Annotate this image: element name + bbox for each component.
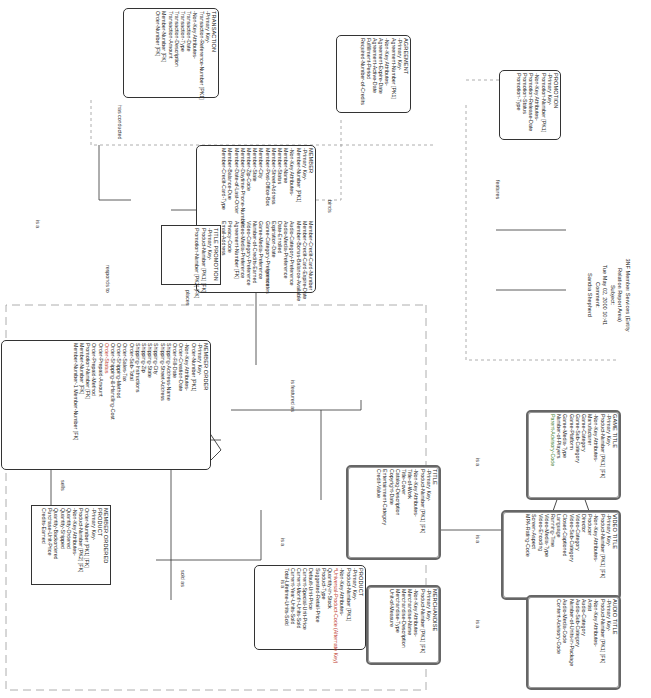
- rel-label-sold-as: sold as: [180, 570, 186, 587]
- entity-product[interactable]: PRODUCT -Primary Key- Product-Number [PK…: [254, 565, 366, 650]
- entity-audio-title[interactable]: AUDIO TITLE -Primary Key- Product-Number…: [526, 595, 621, 690]
- entity-promotion[interactable]: PROMOTION -Primary Key- Promotion-Number…: [499, 70, 561, 140]
- er-diagram-canvas: TRANSACTION -Primary Key- Transaction-Re…: [0, 0, 651, 698]
- rel-label-is-a-audio: is a: [475, 620, 481, 628]
- entity-title: MEMBER ORDER: [203, 343, 209, 467]
- rel-label-responds-to: responds to: [105, 265, 111, 293]
- rel-label-is-a-title: is a: [280, 538, 286, 546]
- entity-member-ordered-product[interactable]: MEMBER ORDERED PRODUCT -Primary Key- Ord…: [31, 505, 111, 585]
- entity-merchandise[interactable]: MERCHANDISE -Primary Key- Product-Number…: [366, 585, 441, 665]
- rel-label-features: features: [495, 180, 501, 199]
- entity-title: PRODUCT: [358, 568, 364, 647]
- entity-agreement[interactable]: AGREEMENT -Primary Key- Agreement-Number…: [336, 35, 411, 113]
- entity-transaction[interactable]: TRANSACTION -Primary Key- Transaction-Re…: [123, 8, 219, 98]
- entity-title: MEMBER: [308, 148, 314, 217]
- entity-title: VIDEO TITLE: [612, 514, 618, 596]
- title-block: 3NF Member Services (Entity Relation Rep…: [586, 240, 631, 350]
- rel-label-is-a-game: is a: [475, 458, 481, 466]
- entity-title: TITLE PROMOTION: [213, 228, 219, 282]
- rel-label-is-featured-as: is featured as: [290, 380, 296, 412]
- rel-label-places: places: [185, 290, 191, 305]
- rel-label-generates: generates: [265, 270, 271, 294]
- entity-game-title[interactable]: GAME TITLE -Primary Key- Product-Number …: [526, 410, 621, 500]
- rel-label-is-a-merchandise: is a: [280, 580, 286, 588]
- entity-title: AGREEMENT: [403, 38, 409, 110]
- entity-title: TRANSACTION: [211, 11, 217, 95]
- entity-title: GAME TITLE: [612, 414, 618, 496]
- entity-title: MERCHANDISE: [432, 589, 438, 661]
- entity-title: PROMOTION: [553, 73, 559, 137]
- rel-label-binds: binds: [327, 200, 333, 213]
- entity-title: MEMBER ORDERED PRODUCT: [97, 508, 109, 582]
- rel-label-sells: sells: [60, 480, 66, 491]
- entity-title: AUDIO TITLE: [612, 599, 618, 686]
- entity-title-entity[interactable]: TITLE -Primary Key- Product-Number [PK1]…: [346, 465, 441, 560]
- entity-member-order[interactable]: MEMBER ORDER -Primary Key- Order-Number …: [1, 340, 211, 470]
- rel-label-is-a-video: is a: [475, 535, 481, 543]
- rel-label-has-conducted: has conducted: [117, 105, 123, 139]
- entity-title: TITLE: [432, 469, 438, 556]
- entity-title-promotion[interactable]: TITLE PROMOTION -Primary Key- Product-Nu…: [161, 225, 221, 285]
- rel-label-is-a: is a: [35, 220, 41, 228]
- entity-video-title[interactable]: VIDEO TITLE -Primary Key- Product-Number…: [501, 510, 621, 600]
